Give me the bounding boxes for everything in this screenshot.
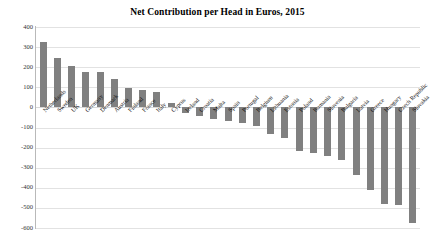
gridline-100	[36, 87, 420, 88]
bar	[310, 107, 317, 152]
bar	[97, 72, 104, 107]
bar	[395, 107, 402, 204]
bar	[253, 107, 260, 126]
gridline-400	[36, 27, 420, 28]
y-tick-label: 400	[3, 24, 33, 31]
bar	[168, 103, 175, 107]
bar	[225, 107, 232, 121]
y-tick-label: -300	[3, 164, 33, 171]
gridline-200	[36, 67, 420, 68]
y-tick-label: 300	[3, 44, 33, 51]
gridline--200	[36, 148, 420, 149]
bar	[125, 88, 132, 107]
gridline--500	[36, 208, 420, 209]
bar	[40, 42, 47, 107]
y-tick-label: 200	[3, 64, 33, 71]
y-tick-label: 0	[3, 104, 33, 111]
y-axis-tick-labels: 4003002001000-100-200-300-400-500-600	[0, 0, 33, 243]
gridline--400	[36, 188, 420, 189]
bar	[381, 107, 388, 203]
bar	[182, 107, 189, 113]
y-tick-label: -600	[3, 225, 33, 232]
y-tick-label: -500	[3, 204, 33, 211]
bar	[239, 107, 246, 123]
bar	[296, 107, 303, 150]
bar	[367, 107, 374, 189]
chart-title: Net Contribution per Head in Euros, 2015	[0, 7, 435, 17]
bar	[196, 107, 203, 116]
bar	[281, 107, 288, 137]
bar	[82, 72, 89, 107]
bar	[153, 92, 160, 107]
bar	[68, 66, 75, 107]
bar	[338, 107, 345, 159]
gridline--300	[36, 168, 420, 169]
y-tick-label: 100	[3, 84, 33, 91]
bar	[139, 90, 146, 107]
bar	[210, 107, 217, 119]
plot-area	[36, 27, 420, 228]
y-tick-label: -400	[3, 184, 33, 191]
gridline-300	[36, 47, 420, 48]
gridline--100	[36, 128, 420, 129]
chart-container: Net Contribution per Head in Euros, 2015…	[0, 0, 435, 243]
bar	[111, 79, 118, 107]
bar	[353, 107, 360, 174]
y-tick-label: -100	[3, 124, 33, 131]
bar	[324, 107, 331, 155]
gridline--600	[36, 228, 420, 229]
bar	[409, 107, 416, 223]
bar	[267, 107, 274, 133]
bar	[54, 58, 61, 107]
y-tick-label: -200	[3, 144, 33, 151]
